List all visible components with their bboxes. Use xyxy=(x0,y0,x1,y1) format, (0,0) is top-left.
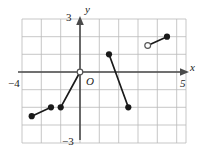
closed-endpoint xyxy=(106,51,112,57)
origin-label: O xyxy=(86,76,94,87)
y-axis-arrowhead xyxy=(76,16,84,25)
closed-endpoint xyxy=(29,113,35,119)
x-axis-arrowhead xyxy=(180,68,189,76)
y-axis-max-label: 3 xyxy=(66,12,72,23)
graph-figure: 3 y x O −4 5 −3 xyxy=(0,0,207,158)
closed-endpoint xyxy=(125,104,131,110)
grid-lines xyxy=(22,19,186,143)
y-axis-label: y xyxy=(85,4,90,15)
x-axis-label: x xyxy=(190,62,195,73)
open-endpoint xyxy=(77,69,83,75)
y-axis-min-label: −3 xyxy=(62,136,74,147)
closed-endpoint xyxy=(164,34,170,40)
closed-endpoint xyxy=(58,104,64,110)
open-endpoint xyxy=(145,43,151,49)
x-axis-min-label: −4 xyxy=(8,78,20,89)
x-axis-max-label: 5 xyxy=(180,78,186,89)
coordinate-plane-svg xyxy=(0,0,207,158)
closed-endpoint xyxy=(48,104,54,110)
